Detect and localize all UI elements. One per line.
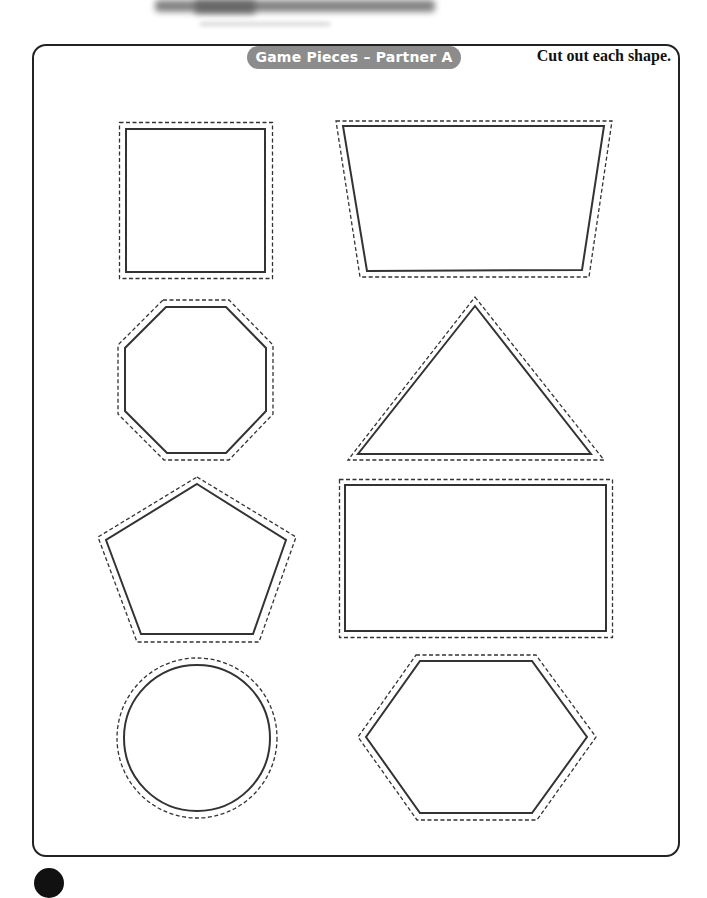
shape-outline xyxy=(125,307,266,453)
shape-outline xyxy=(106,484,286,634)
shape-octagon[interactable] xyxy=(118,300,273,460)
shape-outline xyxy=(124,665,270,811)
shape-triangle[interactable] xyxy=(348,297,604,460)
shape-pentagon[interactable] xyxy=(98,477,296,642)
shape-outline xyxy=(126,129,265,272)
shape-trapezoid[interactable] xyxy=(336,121,612,277)
shape-circle[interactable] xyxy=(117,658,277,818)
shape-hexagon[interactable] xyxy=(358,655,596,820)
shape-outline xyxy=(343,126,604,271)
shape-rectangle[interactable] xyxy=(340,480,613,638)
shape-outline xyxy=(358,306,591,454)
shape-square[interactable] xyxy=(120,123,273,279)
shape-outline xyxy=(345,485,606,631)
shape-outline xyxy=(366,661,587,813)
page-marker-dot xyxy=(34,868,64,898)
